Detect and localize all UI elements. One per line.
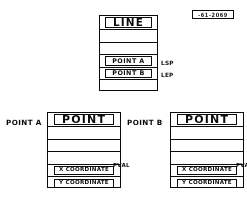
point-a-blank-row-1 <box>48 127 120 140</box>
point-b-title: POINT <box>177 114 237 126</box>
line-record-blank-row-3 <box>100 80 157 93</box>
point-b-title-row: POINT <box>171 113 243 127</box>
point-b-blank-row-2 <box>171 140 243 153</box>
point-b-record: POINT X COORDINATE Y COORDINATE <box>170 112 244 188</box>
point-b-outside-label: POINT B <box>127 118 163 127</box>
line-record-point-b-row: POINT B <box>100 68 157 81</box>
corner-stamp: -61-2069 <box>192 10 234 19</box>
point-a-y-coordinate-label: Y COORDINATE <box>54 179 114 189</box>
point-a-y-coordinate-row: Y COORDINATE <box>48 177 120 190</box>
point-b-pval-note: PVAL <box>236 162 247 168</box>
line-record-point-a-label: POINT A <box>105 56 152 66</box>
point-a-outside-label: POINT A <box>6 118 42 127</box>
line-start-point-note: LSP <box>161 60 174 66</box>
line-end-point-note: LEP <box>161 72 174 78</box>
point-a-blank-row-3 <box>48 152 120 165</box>
line-record-point-a-row: POINT A <box>100 55 157 68</box>
point-b-blank-row-3 <box>171 152 243 165</box>
point-b-x-coordinate-label: X COORDINATE <box>177 166 237 176</box>
point-b-x-coordinate-row: X COORDINATE <box>171 165 243 178</box>
line-record-title-row: LINE <box>100 16 157 30</box>
point-a-title: POINT <box>54 114 114 126</box>
line-record-blank-row-2 <box>100 43 157 56</box>
point-b-y-coordinate-row: Y COORDINATE <box>171 177 243 190</box>
point-b-y-coordinate-label: Y COORDINATE <box>177 179 237 189</box>
corner-stamp-text: -61-2069 <box>198 11 228 18</box>
line-record-title: LINE <box>105 17 152 28</box>
point-b-blank-row-1 <box>171 127 243 140</box>
point-a-blank-row-2 <box>48 140 120 153</box>
line-record-blank-row-1 <box>100 30 157 43</box>
record-structure-diagram: -61-2069 LINE POINT A POINT B LSP LEP PO… <box>0 0 247 203</box>
line-record-point-b-label: POINT B <box>105 69 152 79</box>
point-a-pval-note: PVAL <box>113 162 130 168</box>
point-a-x-coordinate-label: X COORDINATE <box>54 166 114 176</box>
line-record: LINE POINT A POINT B <box>99 15 158 91</box>
point-a-record: POINT X COORDINATE Y COORDINATE <box>47 112 121 188</box>
point-a-title-row: POINT <box>48 113 120 127</box>
point-a-x-coordinate-row: X COORDINATE <box>48 165 120 178</box>
